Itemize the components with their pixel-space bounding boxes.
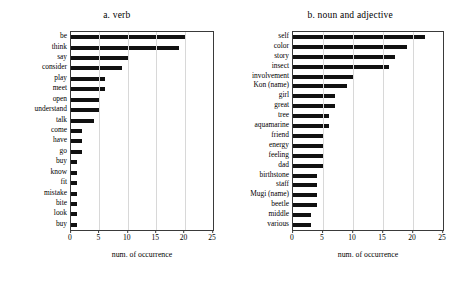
bar [71, 223, 77, 227]
y-axis-tick-label: know [51, 168, 67, 175]
gridline [413, 32, 414, 230]
y-axis-tick-label: insect [272, 62, 289, 69]
y-axis-tick-label: meet [53, 85, 67, 92]
x-axis-tick-mark [442, 230, 443, 233]
x-axis-tick-label: 0 [290, 233, 294, 242]
x-axis-tick-mark [184, 230, 185, 233]
bar [71, 202, 77, 206]
bar-fill [293, 223, 311, 227]
y-axis-tick-label: buy [56, 220, 67, 227]
bar [71, 212, 77, 216]
gridline [353, 32, 354, 230]
bar-fill [71, 46, 179, 50]
y-axis-tick-label: look [54, 210, 67, 217]
gridline [383, 32, 384, 230]
y-axis-tick-label: say [57, 53, 67, 60]
y-axis-tick-label: middle [268, 210, 289, 217]
gridline [156, 32, 157, 230]
bar-fill [71, 119, 94, 123]
y-axis-tick-label: great [274, 102, 289, 109]
bar-fill [71, 160, 77, 164]
y-axis-tick-label: play [54, 74, 67, 81]
y-axis-tick-label: various [267, 220, 289, 227]
bar-fill [293, 94, 335, 98]
x-axis-tick-label: 5 [320, 233, 324, 242]
bar [71, 150, 82, 154]
bar [293, 174, 317, 178]
x-axis-tick-mark [292, 230, 293, 233]
y-axis-tick-label: have [53, 137, 67, 144]
x-axis-tick-mark [352, 230, 353, 233]
bar [293, 65, 389, 69]
bar-fill [293, 164, 323, 168]
x-axis-tick-label: 0 [68, 233, 72, 242]
y-axis-tick-label: friend [271, 131, 289, 138]
bar [71, 171, 77, 175]
y-axis-tick-label: think [52, 43, 67, 50]
x-axis-tick-mark [127, 230, 128, 233]
y-axis-labels-b: selfcolorstoryinsectinvolvementKon (name… [234, 31, 290, 231]
y-axis-tick-label: be [60, 33, 67, 40]
bar-fill [293, 174, 317, 178]
bar-fill [71, 66, 122, 70]
x-axis-tick-mark [212, 230, 213, 233]
bar [71, 98, 99, 102]
y-axis-tick-label: involvement [252, 72, 289, 79]
x-axis-tick-mark [322, 230, 323, 233]
x-axis-tick-label: 10 [348, 233, 356, 242]
bar-fill [71, 202, 77, 206]
x-axis-tick-mark [98, 230, 99, 233]
x-axis-label-a: num. of occurrence [70, 250, 214, 259]
bar [71, 66, 122, 70]
bar [293, 164, 323, 168]
bar-fill [71, 223, 77, 227]
bar [293, 35, 425, 39]
chart-panel-noun-adjective: b. noun and adjective selfcolorstoryinse… [234, 0, 467, 285]
bar [71, 119, 94, 123]
bar-fill [71, 150, 82, 154]
figure-root: a. verb bethinksayconsiderplaymeetopenun… [0, 0, 467, 285]
bar [293, 203, 317, 207]
bar [293, 134, 323, 138]
y-axis-tick-label: fit [60, 178, 67, 185]
x-axis-ticks-b: 0510152025 [292, 233, 444, 245]
bar [293, 84, 347, 88]
bar [293, 193, 317, 197]
bar [71, 160, 77, 164]
gridline [128, 32, 129, 230]
y-axis-tick-label: buy [56, 158, 67, 165]
bar [293, 183, 317, 187]
bar-fill [293, 45, 407, 49]
x-axis-tick-mark [70, 230, 71, 233]
y-axis-tick-label: consider [42, 64, 67, 71]
bar [71, 108, 99, 112]
bar-fill [293, 144, 323, 148]
y-axis-tick-label: Mugi (name) [250, 191, 289, 198]
y-axis-tick-label: feeling [268, 151, 289, 158]
bar-fill [293, 193, 317, 197]
plot-area-b [292, 31, 444, 231]
y-axis-tick-label: energy [269, 141, 289, 148]
y-axis-tick-label: aquamarine [255, 121, 289, 128]
bar [293, 94, 335, 98]
x-axis-tick-label: 25 [208, 233, 216, 242]
y-axis-tick-label: color [274, 42, 289, 49]
x-axis-tick-label: 15 [378, 233, 386, 242]
y-axis-tick-label: Kon (name) [253, 82, 289, 89]
y-axis-tick-label: dad [278, 161, 289, 168]
bar-fill [293, 183, 317, 187]
bar-fill [71, 98, 99, 102]
bar-fill [293, 154, 323, 158]
bar-fill [293, 213, 311, 217]
bars-a [71, 32, 213, 230]
x-axis-ticks-a: 0510152025 [70, 233, 214, 245]
y-axis-labels-a: bethinksayconsiderplaymeetopenunderstand… [0, 31, 67, 231]
gridline [323, 32, 324, 230]
bar-fill [293, 104, 335, 108]
y-axis-tick-label: understand [35, 105, 67, 112]
y-axis-tick-label: talk [56, 116, 67, 123]
bar-fill [293, 35, 425, 39]
x-axis-tick-label: 10 [123, 233, 131, 242]
bar [71, 129, 82, 133]
y-axis-tick-label: bite [56, 199, 67, 206]
